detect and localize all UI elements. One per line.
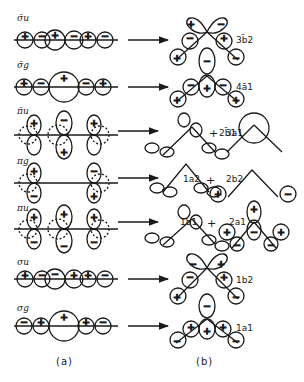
svg-text:+: + bbox=[214, 189, 222, 199]
svg-text:−: − bbox=[30, 237, 38, 247]
svg-text:+: + bbox=[90, 118, 98, 128]
svg-text:−: − bbox=[217, 19, 225, 29]
svg-text:+: + bbox=[30, 166, 38, 176]
svg-text:−: − bbox=[219, 80, 227, 90]
svg-text:−: − bbox=[60, 115, 68, 125]
label-sigma-bar-u: σ̄u bbox=[17, 14, 29, 23]
svg-text:+: + bbox=[173, 292, 181, 302]
label-pi-bar-u: π̄u bbox=[17, 107, 29, 116]
svg-text:+: + bbox=[70, 270, 78, 280]
svg-text:+: + bbox=[21, 31, 29, 41]
svg-text:+: + bbox=[173, 53, 181, 63]
svg-text:−: − bbox=[232, 53, 240, 63]
row-pi-u-linear: +++ −−− bbox=[14, 205, 158, 253]
label-2a1: 2a1 bbox=[229, 218, 246, 227]
svg-text:−: − bbox=[186, 33, 194, 43]
svg-text:−: − bbox=[99, 317, 107, 327]
row-1b2-bent: −+ −+ +− bbox=[170, 254, 244, 304]
svg-text:+: + bbox=[232, 95, 240, 105]
row-sigma-bar-u-linear: +−+ −+− bbox=[14, 30, 168, 50]
svg-text:−: − bbox=[101, 31, 109, 41]
label-pi-g: πg bbox=[17, 157, 29, 166]
svg-text:−: − bbox=[232, 292, 240, 302]
svg-text:+: + bbox=[60, 312, 68, 322]
svg-text:+: + bbox=[21, 270, 29, 280]
svg-text:+: + bbox=[60, 73, 68, 83]
svg-text:−: − bbox=[187, 80, 195, 90]
label-pi-u: πu bbox=[17, 204, 29, 213]
svg-text:−: − bbox=[101, 270, 109, 280]
svg-text:+: + bbox=[203, 326, 211, 336]
label-sigma-g: σg bbox=[17, 304, 29, 313]
label-4a1: 4ā1 bbox=[236, 83, 253, 92]
label-3b2: 3b̄2 bbox=[236, 36, 253, 45]
svg-text:+: + bbox=[84, 31, 92, 41]
svg-text:+: + bbox=[220, 33, 228, 43]
row-pi-bar-u-linear: +−+ + bbox=[14, 111, 158, 159]
svg-text:−: − bbox=[51, 269, 59, 279]
svg-text:−: − bbox=[90, 237, 98, 247]
mo-correlation-diagram: +−+ −+− +− −+ +− +−+ −+ bbox=[0, 0, 304, 382]
label-1b2: 1b2 bbox=[236, 276, 253, 285]
svg-text:−: − bbox=[250, 227, 258, 237]
svg-text:+: + bbox=[51, 30, 59, 40]
svg-text:+: + bbox=[187, 19, 195, 29]
svg-text:−: − bbox=[203, 56, 211, 66]
svg-text:−: − bbox=[38, 31, 46, 41]
svg-text:−: − bbox=[232, 336, 240, 346]
svg-text:+: + bbox=[173, 95, 181, 105]
svg-text:+: + bbox=[20, 78, 28, 88]
caption-panel-b: (b) bbox=[196, 356, 213, 367]
svg-text:+: + bbox=[84, 270, 92, 280]
svg-text:+: + bbox=[219, 322, 227, 332]
label-3a1: 3a1 bbox=[226, 129, 243, 138]
svg-text:+: + bbox=[60, 147, 68, 157]
svg-text:+: + bbox=[217, 259, 225, 269]
caption-panel-a: (a) bbox=[56, 356, 73, 367]
svg-text:+: + bbox=[223, 227, 231, 237]
svg-text:+: + bbox=[250, 204, 258, 214]
label-sigma-u: σu bbox=[17, 258, 29, 267]
svg-text:+: + bbox=[277, 227, 285, 237]
svg-text:−: − bbox=[267, 240, 275, 250]
plus-sign-row3: + bbox=[209, 127, 218, 140]
svg-text:+: + bbox=[99, 78, 107, 88]
svg-text:+: + bbox=[60, 209, 68, 219]
svg-text:−: − bbox=[233, 240, 241, 250]
svg-text:−: − bbox=[203, 301, 211, 311]
row-1a1-bent: −+ +− +− bbox=[170, 294, 244, 348]
svg-text:−: − bbox=[30, 191, 38, 201]
svg-text:−: − bbox=[90, 166, 98, 176]
label-1b1: 1b1 bbox=[180, 218, 197, 227]
svg-text:−: − bbox=[37, 78, 45, 88]
svg-text:−: − bbox=[173, 336, 181, 346]
label-2b2: 2b2 bbox=[226, 175, 243, 184]
svg-text:+: + bbox=[30, 212, 38, 222]
svg-text:+: + bbox=[90, 191, 98, 201]
row-pi-g-linear: +− −+ bbox=[14, 163, 158, 203]
svg-text:+: + bbox=[30, 118, 38, 128]
label-sigma-bar-g: σ̄g bbox=[17, 61, 29, 70]
label-1a2: 1a2 bbox=[183, 175, 200, 184]
row-sigma-u-linear: +−− ++− bbox=[14, 269, 168, 289]
svg-text:+: + bbox=[37, 317, 45, 327]
svg-text:−: − bbox=[38, 270, 46, 280]
svg-text:+: + bbox=[90, 212, 98, 222]
svg-text:−: − bbox=[284, 189, 292, 199]
row-sigma-bar-g-linear: +−+ −+ bbox=[14, 72, 168, 102]
svg-text:−: − bbox=[82, 78, 90, 88]
svg-text:+: + bbox=[187, 322, 195, 332]
plus-sign-row4: + bbox=[206, 174, 215, 187]
svg-text:−: − bbox=[20, 317, 28, 327]
svg-text:−: − bbox=[186, 272, 194, 282]
svg-text:+: + bbox=[220, 272, 228, 282]
svg-text:−: − bbox=[60, 241, 68, 251]
row-2b2-bent: + − bbox=[210, 170, 296, 202]
row-1b1-bent bbox=[145, 205, 229, 251]
svg-text:−: − bbox=[189, 259, 197, 269]
row-sigma-g-linear: −++ +− bbox=[14, 311, 168, 341]
plus-sign-row5: + bbox=[207, 217, 216, 230]
svg-text:+: + bbox=[82, 317, 90, 327]
label-1a1: 1a1 bbox=[236, 324, 253, 333]
svg-text:+: + bbox=[203, 83, 211, 93]
